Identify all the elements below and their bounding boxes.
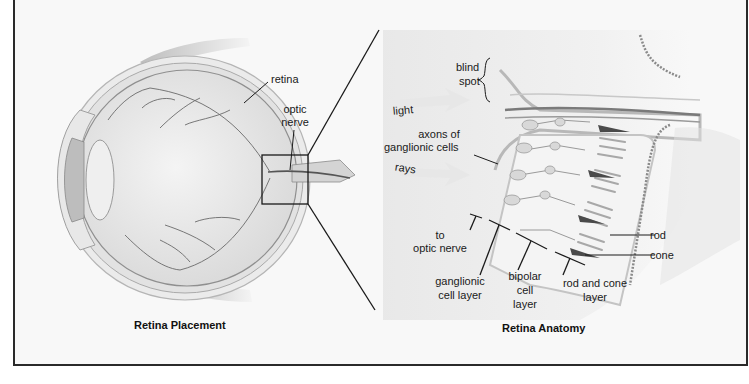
eye-cross-section: [58, 30, 380, 310]
label-blind-spot-1: blind: [456, 61, 479, 74]
lens: [86, 140, 114, 220]
label-light: light: [392, 103, 413, 118]
label-rays: rays: [394, 161, 416, 177]
label-rod-cone-1: rod and cone: [555, 277, 635, 290]
label-bipolar-3: layer: [500, 298, 550, 311]
label-to-optic-1: to: [405, 229, 475, 242]
caption-retina-placement: Retina Placement: [134, 319, 226, 331]
label-axons-1: axons of: [384, 128, 494, 141]
label-blind-spot-2: spot: [459, 75, 480, 88]
label-cone: cone: [650, 249, 674, 262]
label-rod: rod: [650, 229, 666, 242]
caption-retina-anatomy: Retina Anatomy: [502, 322, 585, 334]
label-rod-cone-2: layer: [555, 291, 635, 304]
label-ganglionic-1: ganglionic: [425, 275, 495, 288]
label-optic-nerve-2: nerve: [280, 116, 310, 129]
label-retina: retina: [271, 73, 299, 86]
eye-illustration: [0, 0, 749, 384]
label-bipolar-2: cell: [500, 284, 550, 297]
label-to-optic-2: optic nerve: [405, 242, 475, 255]
label-bipolar-1: bipolar: [500, 270, 550, 283]
label-optic-nerve-1: optic: [280, 103, 310, 116]
zoom-line-bottom: [308, 204, 375, 310]
zoom-line-top: [308, 30, 379, 155]
label-ganglionic-2: cell layer: [425, 289, 495, 302]
iris: [65, 138, 85, 222]
label-axons-2: ganglionic cells: [384, 141, 459, 154]
